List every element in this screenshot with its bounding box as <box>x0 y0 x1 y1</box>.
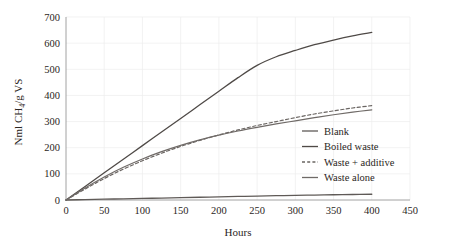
y-tick-label: 600 <box>44 38 60 49</box>
x-axis-tick-labels: 050100150200250300350400450 <box>63 205 418 216</box>
x-tick-label: 300 <box>287 205 303 216</box>
x-axis-title: Hours <box>225 226 252 238</box>
legend-label-blank: Blank <box>324 126 350 137</box>
chart-legend: BlankBoiled wasteWaste + additiveWaste a… <box>302 126 395 184</box>
x-tick-label: 350 <box>326 205 342 216</box>
legend-label-waste-additive: Waste + additive <box>324 157 395 168</box>
x-tick-label: 450 <box>402 205 418 216</box>
y-tick-label: 400 <box>44 90 60 101</box>
line-chart: 0100200300400500600700 05010015020025030… <box>0 0 449 243</box>
x-tick-label: 50 <box>99 205 110 216</box>
x-tick-label: 150 <box>173 205 189 216</box>
y-tick-label: 100 <box>44 168 60 179</box>
x-tick-label: 100 <box>135 205 151 216</box>
y-tick-label: 300 <box>44 116 60 127</box>
y-tick-label: 200 <box>44 142 60 153</box>
chart-figure: 0100200300400500600700 05010015020025030… <box>0 0 449 243</box>
y-tick-label: 500 <box>44 64 60 75</box>
legend-label-waste-alone: Waste alone <box>324 172 375 183</box>
y-axis-title: Nml CH4/g VS <box>12 79 27 146</box>
legend-label-boiled-waste: Boiled waste <box>324 141 379 152</box>
x-tick-label: 250 <box>249 205 265 216</box>
x-tick-label: 400 <box>364 205 380 216</box>
x-tick-label: 0 <box>63 205 68 216</box>
y-axis-tick-labels: 0100200300400500600700 <box>44 12 60 206</box>
x-tick-label: 200 <box>211 205 227 216</box>
y-tick-label: 0 <box>55 195 60 206</box>
y-tick-label: 700 <box>44 12 60 23</box>
